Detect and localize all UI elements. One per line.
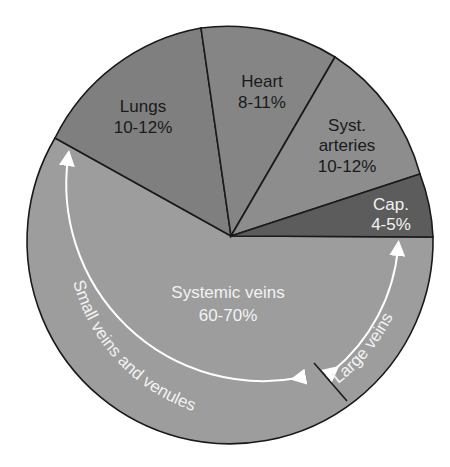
cap-pct: 4-5% bbox=[371, 215, 411, 234]
cap-label: Cap. bbox=[373, 195, 409, 214]
lungs-pct: 10-12% bbox=[114, 118, 173, 137]
systemic-veins-label: Systemic veins bbox=[171, 283, 284, 302]
systemic-veins-pct: 60-70% bbox=[199, 306, 258, 325]
arteries-label-2: arteries bbox=[319, 136, 376, 155]
blood-volume-pie-chart: Lungs 10-12% Heart 8-11% Syst. arteries … bbox=[0, 0, 450, 467]
heart-label: Heart bbox=[241, 72, 283, 91]
lungs-label: Lungs bbox=[120, 97, 166, 116]
arteries-pct: 10-12% bbox=[318, 157, 377, 176]
arteries-label-1: Syst. bbox=[328, 116, 366, 135]
heart-pct: 8-11% bbox=[238, 93, 286, 112]
